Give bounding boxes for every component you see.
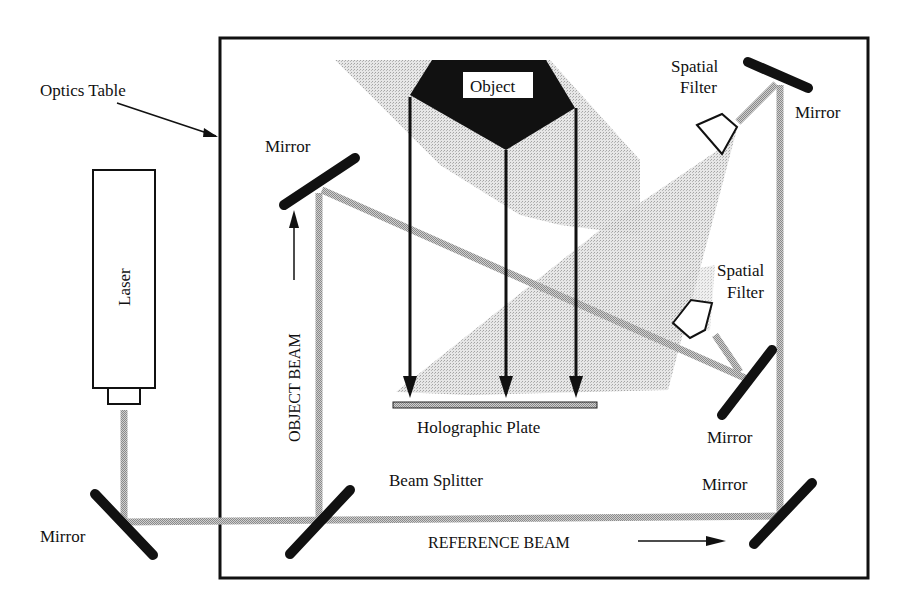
beam-splitter-label: Beam Splitter: [389, 471, 483, 490]
object-beam-arrow: [289, 210, 299, 280]
spatial-filter-top-label-1: Spatial: [671, 57, 718, 76]
spatial-filter-top-label-2: Filter: [680, 78, 717, 97]
laser-label: Laser: [115, 268, 134, 306]
mirror-bottom-right-label: Mirror: [702, 475, 748, 494]
holographic-plate: [393, 402, 597, 408]
optics-table-label: Optics Table: [40, 81, 126, 100]
mirror-top-right: [748, 62, 808, 88]
optics-table-pointer: [117, 103, 216, 136]
mirror-top-right-label: Mirror: [795, 103, 841, 122]
spatial-filter-mid-label-1: Spatial: [717, 261, 764, 280]
laser: Laser: [93, 170, 155, 404]
holography-setup-diagram: Object Holographic Plate Laser O: [0, 0, 901, 609]
object-label: Object: [470, 77, 516, 96]
mirror-mid-right-label: Mirror: [707, 428, 753, 447]
reference-beam-label: REFERENCE BEAM: [428, 534, 570, 551]
reference-beam-arrow: [638, 536, 726, 546]
mirror-upper-left-label: Mirror: [265, 137, 311, 156]
spatial-filter-mid-label-2: Filter: [727, 283, 764, 302]
object-beam-label: OBJECT BEAM: [286, 333, 303, 442]
holographic-plate-label: Holographic Plate: [417, 418, 540, 437]
mirror-outside-left-label: Mirror: [40, 527, 86, 546]
